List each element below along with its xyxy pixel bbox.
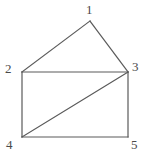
vertex-label-2: 2: [5, 62, 12, 75]
graph-diagram-figure: 12345: [0, 0, 147, 155]
vertex-label-4: 4: [6, 138, 13, 151]
vertex-label-1: 1: [86, 3, 93, 16]
graph-edges-svg: [0, 0, 147, 155]
vertex-label-5: 5: [131, 138, 138, 151]
edge-4-3: [22, 72, 128, 137]
edge-1-3: [90, 21, 128, 72]
edge-2-1: [22, 21, 90, 72]
edges-group: [22, 21, 128, 137]
vertex-label-3: 3: [132, 60, 139, 73]
